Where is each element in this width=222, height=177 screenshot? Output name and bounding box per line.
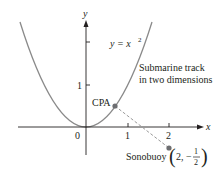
diagram-canvas: y x 0 1 2 1 y = x 2 Submarine track in t… — [0, 0, 222, 177]
sonobuoy-coord-open-paren: ( — [169, 145, 176, 168]
sonobuoy-coord-close-paren: ) — [201, 145, 208, 168]
x-axis-arrow-icon — [197, 125, 204, 130]
sonobuoy-coord-den: 2 — [194, 158, 198, 167]
x-tick-label-1: 1 — [125, 130, 130, 141]
sonobuoy-coord-num: 1 — [194, 147, 198, 156]
y-tick-label-1: 1 — [77, 80, 82, 91]
equation-exponent: 2 — [138, 36, 142, 44]
origin-label: 0 — [75, 130, 80, 141]
sonobuoy-coord-sign: − — [186, 151, 192, 162]
x-tick-label-2: 2 — [166, 130, 171, 141]
curve-caption-line2: in two dimensions — [139, 74, 212, 85]
curve-caption-line1: Submarine track — [139, 62, 205, 73]
cpa-label: CPA — [92, 97, 111, 108]
sonobuoy-label: Sonobuoy — [126, 151, 167, 162]
cpa-point — [112, 103, 117, 108]
y-axis-arrow-icon — [84, 20, 89, 27]
equation-label: y = x — [109, 38, 131, 49]
x-axis-label: x — [205, 121, 211, 132]
sonobuoy-coord-x: 2, — [176, 151, 184, 162]
y-axis-label: y — [82, 8, 88, 19]
